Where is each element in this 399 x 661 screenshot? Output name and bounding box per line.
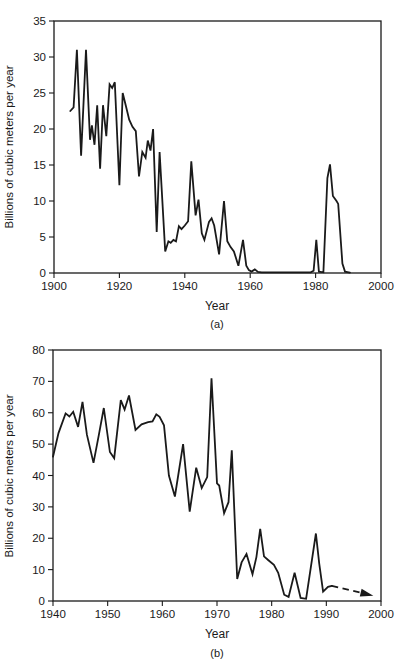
forecast-arrowhead-icon <box>360 589 374 597</box>
chart-b-plot-area: 1940195019601970198019902000010203040506… <box>32 344 394 620</box>
y-tick-label: 5 <box>40 231 46 243</box>
x-tick-label: 1990 <box>314 608 340 620</box>
x-tick-label: 1970 <box>204 608 230 620</box>
chart-b-plot: 1940195019601970198019902000010203040506… <box>0 330 399 661</box>
series-line <box>70 50 350 273</box>
y-tick-label: 40 <box>32 470 45 482</box>
x-tick-label: 2000 <box>368 608 394 620</box>
x-axis-label: Year <box>205 299 229 313</box>
x-tick-label: 1960 <box>150 608 176 620</box>
chart-b: 1940195019601970198019902000010203040506… <box>0 330 399 661</box>
y-tick-label: 35 <box>33 15 46 27</box>
plot-frame <box>54 21 381 273</box>
y-tick-label: 30 <box>33 51 46 63</box>
x-tick-label: 1920 <box>107 280 133 292</box>
x-tick-label: 1940 <box>172 280 198 292</box>
y-tick-label: 10 <box>32 564 45 576</box>
x-tick-label: 1980 <box>303 280 329 292</box>
x-tick-label: 1940 <box>40 608 66 620</box>
y-tick-label: 70 <box>32 375 45 387</box>
forecast-dashed-line <box>332 586 366 594</box>
y-tick-label: 0 <box>39 595 45 607</box>
y-tick-label: 15 <box>33 159 46 171</box>
y-tick-label: 50 <box>32 438 45 450</box>
y-tick-label: 30 <box>32 501 45 513</box>
y-tick-label: 25 <box>33 87 46 99</box>
y-tick-label: 80 <box>32 344 45 356</box>
y-axis-label: Billions of cubic meters per year <box>3 394 15 557</box>
y-tick-label: 10 <box>33 195 46 207</box>
x-tick-label: 1950 <box>95 608 121 620</box>
y-tick-label: 0 <box>40 267 46 279</box>
chart-a: 19001920194019601980200005101520253035 B… <box>0 0 399 330</box>
x-tick-label: 1960 <box>237 280 263 292</box>
figure-page: 19001920194019601980200005101520253035 B… <box>0 0 399 661</box>
y-tick-label: 20 <box>33 123 46 135</box>
chart-a-plot-area: 19001920194019601980200005101520253035 <box>33 15 394 292</box>
x-tick-label: 2000 <box>368 280 394 292</box>
x-tick-label: 1900 <box>41 280 67 292</box>
figure-caption-b: (b) <box>210 647 223 659</box>
y-tick-label: 60 <box>32 407 45 419</box>
series-line <box>53 378 332 599</box>
figure-caption-a: (a) <box>210 318 223 330</box>
x-axis-label: Year <box>205 627 229 641</box>
chart-a-plot: 19001920194019601980200005101520253035 B… <box>0 0 399 330</box>
y-tick-label: 20 <box>32 532 45 544</box>
x-tick-label: 1980 <box>259 608 285 620</box>
y-axis-label: Billions of cubic meters per year <box>3 65 15 228</box>
